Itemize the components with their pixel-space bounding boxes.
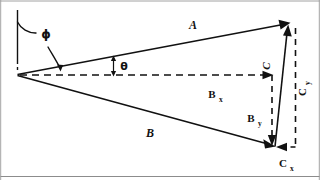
label-bx-subscript: x [219,95,223,104]
label-by-component: B y [247,112,262,128]
label-vector-a: A [188,18,197,32]
vector-diagram-figure: A B C ϕ θ B x B y C x C y [0,0,320,180]
label-by-base: B [247,112,255,124]
theta-angle-indicator [111,56,116,77]
label-cy-component: C y [296,81,312,96]
label-cy-base: C [296,88,308,96]
vector-diagram-canvas: A B C ϕ θ B x B y C x C y [0,0,320,180]
label-bx-component: B x [208,88,223,104]
label-vector-b: B [145,126,154,140]
label-cx-base: C [279,157,287,169]
label-cx-subscript: x [290,164,294,173]
label-theta-angle: θ [120,60,128,73]
label-vector-c: C [260,62,272,70]
vector-a-arrow [18,20,291,75]
label-phi-angle: ϕ [41,27,51,41]
bx-component-arrow [20,71,274,79]
cx-component-arrow [276,143,296,151]
label-cx-component: C x [279,157,294,173]
label-cy-subscript: y [303,81,312,85]
by-component-arrow [268,75,276,146]
vector-c-arrow [275,25,292,147]
label-by-subscript: y [258,119,262,128]
label-bx-base: B [208,88,216,100]
